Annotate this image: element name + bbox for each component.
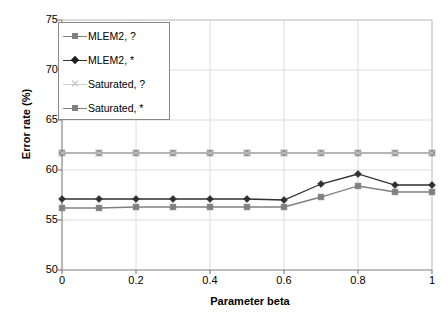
- data-point-marker: [207, 204, 213, 210]
- legend-item-2: Saturated, ?: [63, 73, 145, 95]
- legend-item-1: MLEM2, *: [63, 49, 134, 71]
- legend-item-3: Saturated, *: [63, 97, 143, 119]
- chart-figure: Error rate (%) Parameter beta 5055606570…: [0, 0, 448, 322]
- data-point-marker: [392, 189, 398, 195]
- legend-label-3: Saturated, *: [88, 102, 143, 114]
- x-tick-label: 0.4: [190, 274, 230, 286]
- legend-marker-diamond-black-icon: [63, 54, 87, 66]
- legend-marker-square-gray-icon: [63, 30, 87, 42]
- x-tick-label: 1: [412, 274, 448, 286]
- legend-label-2: Saturated, ?: [88, 78, 145, 90]
- data-point-marker: [59, 196, 66, 203]
- x-tick-label: 0.6: [264, 274, 304, 286]
- y-tick-label: 55: [24, 213, 58, 225]
- data-point-marker: [133, 204, 139, 210]
- y-tick-label: 60: [24, 163, 58, 175]
- legend-marker-cross-lightgray-icon: [63, 78, 87, 90]
- x-tick-label: 0.2: [116, 274, 156, 286]
- data-point-marker: [170, 196, 177, 203]
- y-tick-label: 75: [24, 13, 58, 25]
- legend-item-0: MLEM2, ?: [63, 25, 136, 47]
- data-point-marker: [392, 182, 399, 189]
- data-point-marker: [207, 196, 214, 203]
- data-point-marker: [244, 196, 251, 203]
- series-1: [59, 171, 436, 204]
- legend-label-0: MLEM2, ?: [88, 30, 136, 42]
- data-point-marker: [318, 181, 325, 188]
- y-tick-label: 65: [24, 113, 58, 125]
- data-point-marker: [244, 204, 250, 210]
- data-point-marker: [281, 204, 287, 210]
- x-axis-title: Parameter beta: [60, 295, 440, 307]
- data-point-marker: [429, 182, 436, 189]
- data-point-marker: [318, 194, 324, 200]
- chart-legend: MLEM2, ? MLEM2, * Saturated, ? Saturated…: [58, 22, 170, 120]
- legend-marker-square-gray2-icon: [63, 102, 87, 114]
- data-point-marker: [429, 189, 435, 195]
- data-point-marker: [170, 204, 176, 210]
- y-tick-label: 70: [24, 63, 58, 75]
- data-point-marker: [281, 197, 288, 204]
- legend-label-1: MLEM2, *: [88, 54, 134, 66]
- data-point-marker: [133, 196, 140, 203]
- data-point-marker: [96, 196, 103, 203]
- x-tick-label: 0: [42, 274, 82, 286]
- x-tick-label: 0.8: [338, 274, 378, 286]
- data-point-marker: [59, 205, 65, 211]
- data-point-marker: [355, 183, 361, 189]
- data-point-marker: [355, 171, 362, 178]
- data-point-marker: [96, 205, 102, 211]
